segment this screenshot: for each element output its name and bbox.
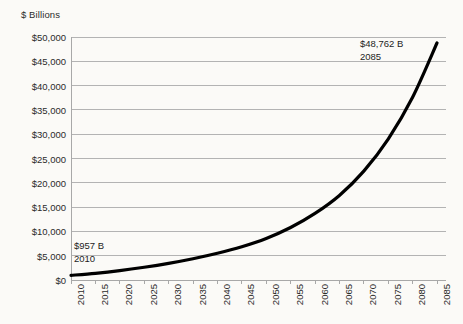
y-axis-tick-label: $20,000 bbox=[6, 177, 66, 188]
data-series-line bbox=[71, 43, 437, 275]
y-axis-tick-labels: $50,000$45,000$40,000$35,000$30,000$25,0… bbox=[3, 37, 66, 280]
annotation-end-year: 2085 bbox=[360, 51, 403, 64]
annotation-end-point: $48,762 B 2085 bbox=[360, 38, 403, 63]
gridlines bbox=[71, 37, 446, 280]
y-axis-tick-label: $15,000 bbox=[6, 202, 66, 213]
x-axis-tick-label: 2010 bbox=[75, 284, 86, 305]
annotation-start-value: $957 B bbox=[74, 240, 104, 253]
plot-area bbox=[71, 37, 446, 280]
chart-plot-svg bbox=[71, 37, 446, 280]
x-axis-tick-label: 2055 bbox=[294, 284, 305, 305]
x-axis-tick-label: 2045 bbox=[245, 284, 256, 305]
y-axis-tick-label: $30,000 bbox=[6, 129, 66, 140]
y-axis-title: $ Billions bbox=[21, 9, 60, 20]
x-axis-tick-label: 2070 bbox=[367, 284, 378, 305]
x-axis-tick-label: 2030 bbox=[172, 284, 183, 305]
y-axis-tick-label: $35,000 bbox=[6, 104, 66, 115]
x-axis-tick-label: 2020 bbox=[123, 284, 134, 305]
x-axis-tick-label: 2050 bbox=[270, 284, 281, 305]
annotation-start-year: 2010 bbox=[74, 253, 104, 266]
x-axis-tick-label: 2080 bbox=[416, 284, 427, 305]
annotation-start-point: $957 B 2010 bbox=[74, 240, 104, 265]
x-axis-tick-label: 2085 bbox=[441, 284, 452, 305]
annotation-end-value: $48,762 B bbox=[360, 38, 403, 51]
x-axis-tick-label: 2065 bbox=[343, 284, 354, 305]
y-axis-tick-label: $50,000 bbox=[6, 32, 66, 43]
x-axis-tick-label: 2025 bbox=[148, 284, 159, 305]
x-axis-tick-label: 2040 bbox=[221, 284, 232, 305]
y-axis-tick-label: $25,000 bbox=[6, 153, 66, 164]
chart-container: $ Billions $50,000$45,000$40,000$35,000$… bbox=[0, 0, 463, 324]
y-axis-tick-label: $40,000 bbox=[6, 80, 66, 91]
x-axis-tick-labels: 2010201520202025203020352040204520502055… bbox=[71, 284, 446, 324]
x-axis-tick-label: 2035 bbox=[197, 284, 208, 305]
x-axis-tick-label: 2060 bbox=[319, 284, 330, 305]
y-axis-tick-label: $45,000 bbox=[6, 56, 66, 67]
y-axis-tick-label: $10,000 bbox=[6, 226, 66, 237]
x-axis-tick-label: 2075 bbox=[392, 284, 403, 305]
x-axis-tick-label: 2015 bbox=[99, 284, 110, 305]
y-axis-tick-label: $0 bbox=[6, 275, 66, 286]
y-axis-tick-label: $5,000 bbox=[6, 250, 66, 261]
